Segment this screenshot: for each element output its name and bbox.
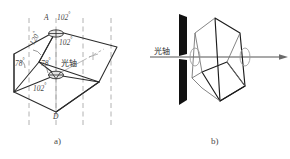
panel-b-slit-crystal: 光轴 b)	[145, 0, 290, 159]
rhombohedron-edges	[14, 54, 99, 112]
vertex-label-D: D	[53, 113, 58, 121]
angle-marker-inner	[49, 71, 64, 79]
caption-a: a)	[54, 137, 61, 146]
angle-label-inner-102: 102°	[59, 37, 72, 46]
angle-label-bottom-102: 102°	[33, 83, 46, 92]
figure-root: A 102° 102° 120° 78° 78° 102° 光轴 D a)	[0, 0, 290, 159]
angle-label-mid-78: 78°	[41, 58, 51, 67]
axis-tick-marks	[89, 52, 98, 60]
caption-b: b)	[211, 137, 219, 146]
angle-label-left-78: 78°	[15, 58, 25, 67]
panel-a-rhombohedron: A 102° 102° 120° 78° 78° 102° 光轴 D a)	[0, 0, 145, 159]
angle-label-top-right-102: 102°	[57, 12, 70, 21]
optic-axis-label-b: 光轴	[154, 48, 170, 56]
rhombohedron-bottom-face	[14, 75, 99, 112]
slit-barrier	[179, 14, 187, 105]
optic-axis-ray	[150, 54, 288, 60]
panel-a-drawing	[0, 0, 145, 159]
crystal-lower-face	[202, 62, 245, 101]
optic-axis-label-a: 光轴	[61, 60, 77, 68]
vertex-label-A: A	[44, 14, 49, 22]
optic-axis-dashed	[84, 49, 104, 60]
